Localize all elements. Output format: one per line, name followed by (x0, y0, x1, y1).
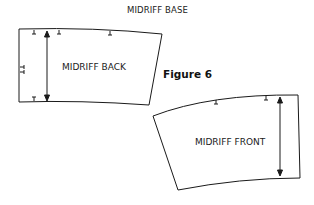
pattern-pieces-svg (0, 0, 314, 205)
midriff-back-label: MIDRIFF BACK (62, 62, 126, 72)
figure-label: Figure 6 (163, 68, 212, 80)
midriff-front-label: MIDRIFF FRONT (195, 137, 265, 147)
diagram-title: MIDRIFF BASE (127, 5, 188, 15)
pattern-diagram: MIDRIFF BASE MIDRIFF BACK Figure 6 MIDRI… (0, 0, 314, 205)
